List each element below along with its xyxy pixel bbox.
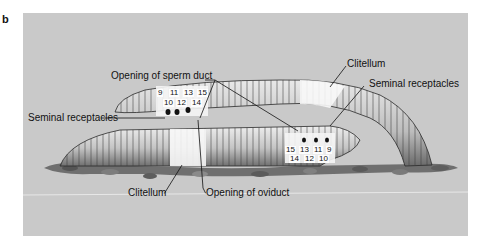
lower-segment-15: 15 <box>285 146 296 154</box>
upper-segment-10: 10 <box>163 99 174 107</box>
lower-segment-10: 10 <box>318 155 329 163</box>
label-clitellum-top: Clitellum <box>347 59 385 69</box>
upper-segment-9: 9 <box>157 89 163 97</box>
upper-segment-14: 14 <box>191 99 202 107</box>
earthworm-illustration <box>0 0 491 248</box>
upper-segment-11: 11 <box>169 89 179 97</box>
lower-segment-11: 11 <box>313 146 323 154</box>
upper-segment-15: 15 <box>197 89 208 97</box>
lower-segment-12: 12 <box>304 155 315 163</box>
lower-segment-9: 9 <box>326 146 332 154</box>
upper-segment-12: 12 <box>176 99 187 107</box>
label-seminal-receptacles-right: Seminal receptacles <box>369 79 459 89</box>
upper-segment-13: 13 <box>183 89 194 97</box>
lower-segment-14: 14 <box>289 155 300 163</box>
label-seminal-receptacles-left: Seminal receptacles <box>28 113 118 123</box>
label-opening-of-sperm-duct: Opening of sperm duct <box>111 71 212 81</box>
label-opening-of-oviduct: Opening of oviduct <box>206 188 289 198</box>
label-clitellum-bottom: Clitellum <box>128 188 166 198</box>
lower-segment-13: 13 <box>299 146 310 154</box>
